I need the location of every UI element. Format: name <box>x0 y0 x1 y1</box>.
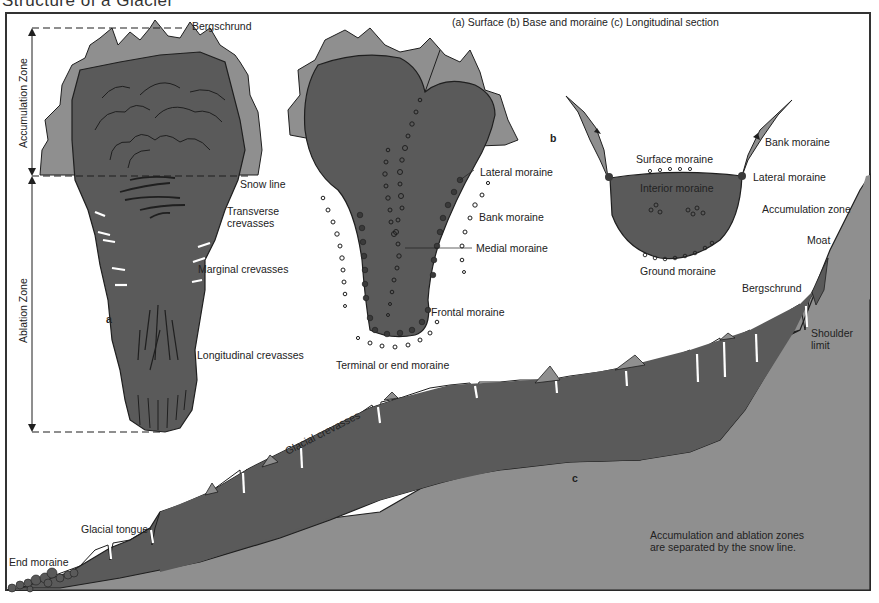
legend: (a) Surface (b) Base and moraine (c) Lon… <box>452 16 719 28</box>
glacier-illustration <box>0 0 879 603</box>
note-line-2: are separated by the snow line. <box>650 541 796 553</box>
label-bank-moraine: Bank moraine <box>765 136 830 148</box>
label-bergschrund-c: Bergschrund <box>742 282 802 294</box>
label-shoulder: Shoulder <box>811 327 853 339</box>
label-glacial-tongue: Glacial tongue <box>81 523 148 535</box>
label-marginal: Marginal crevasses <box>198 263 288 275</box>
label-lateral-moraine-plan: Lateral moraine <box>480 166 553 178</box>
label-medial-moraine: Medial moraine <box>476 242 548 254</box>
label-surface-moraine: Surface moraine <box>636 153 713 165</box>
panel-a-id: a <box>106 313 112 325</box>
label-accumulation-zone-c: Accumulation zone <box>762 203 851 215</box>
label-longitudinal: Longitudinal crevasses <box>197 349 304 361</box>
moraine-plan-panel <box>288 28 518 349</box>
label-bergschrund-a: Bergschrund <box>192 20 252 32</box>
label-accumulation-zone: Accumulation Zone <box>17 58 29 148</box>
label-interior-moraine: Interior moraine <box>640 182 714 194</box>
label-end-moraine: End moraine <box>9 556 69 568</box>
label-snow-line: Snow line <box>240 178 286 190</box>
label-transverse-1: Transverse <box>227 205 279 217</box>
label-moat: Moat <box>807 234 830 246</box>
label-ablation-zone: Ablation Zone <box>17 278 29 343</box>
label-terminal-moraine: Terminal or end moraine <box>336 359 449 371</box>
label-shoulder-limit: limit <box>811 339 830 351</box>
label-bank-moraine-plan: Bank moraine <box>479 211 544 223</box>
note-line-1: Accumulation and ablation zones <box>650 529 804 541</box>
label-ground-moraine: Ground moraine <box>640 265 716 277</box>
label-transverse-2: crevasses <box>227 217 274 229</box>
label-frontal-moraine: Frontal moraine <box>431 306 505 318</box>
label-lateral-moraine: Lateral moraine <box>753 171 826 183</box>
panel-b-id: b <box>550 132 556 144</box>
panel-c-id: c <box>572 472 578 484</box>
